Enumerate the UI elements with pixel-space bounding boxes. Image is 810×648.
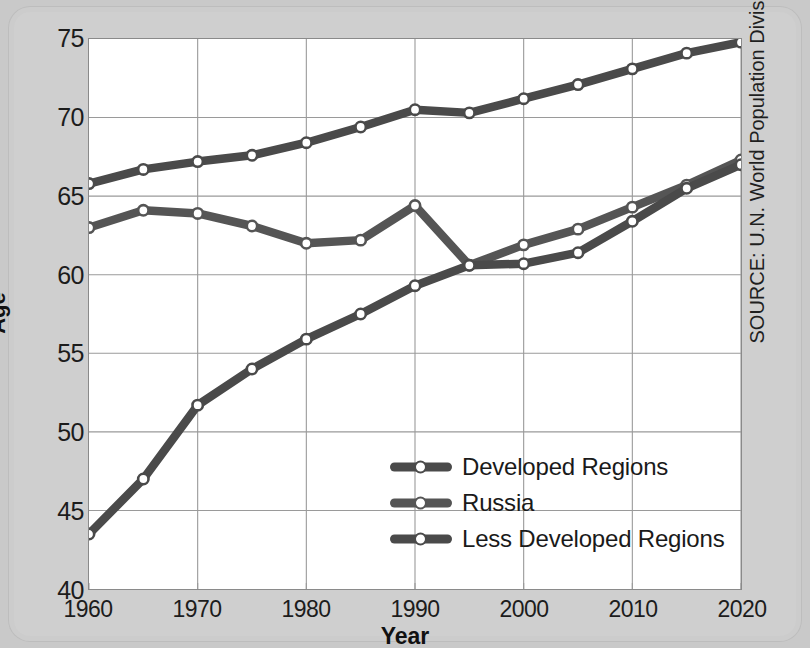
y-tick-50: 50	[24, 418, 84, 447]
y-tick-70: 70	[24, 102, 84, 131]
x-tick-2020: 2020	[697, 596, 787, 623]
y-tick-45: 45	[24, 497, 84, 526]
x-tick-1960: 1960	[43, 596, 133, 623]
chart-figure: 4045505560657075 19601970198019902000201…	[0, 0, 810, 648]
legend-marker-icon	[414, 461, 427, 474]
y-tick-60: 60	[24, 260, 84, 289]
legend-label: Less Developed Regions	[462, 525, 724, 553]
chart-legend: Developed RegionsRussiaLess Developed Re…	[390, 452, 724, 554]
legend-swatch-icon	[390, 488, 452, 518]
source-note: SOURCE: U.N. World Population Division	[746, 0, 769, 344]
legend-swatch-icon	[390, 524, 452, 554]
legend-marker-icon	[414, 533, 427, 546]
legend-swatch-icon	[390, 452, 452, 482]
legend-label: Developed Regions	[462, 453, 668, 481]
y-tick-55: 55	[24, 339, 84, 368]
legend-label: Russia	[462, 489, 534, 517]
y-tick-65: 65	[24, 181, 84, 210]
x-tick-1990: 1990	[370, 596, 460, 623]
x-axis-title: Year	[0, 623, 810, 648]
y-tick-75: 75	[24, 24, 84, 53]
legend-item-less-developed-regions[interactable]: Less Developed Regions	[390, 524, 724, 554]
legend-item-russia[interactable]: Russia	[390, 488, 724, 518]
x-tick-2010: 2010	[588, 596, 678, 623]
legend-item-developed-regions[interactable]: Developed Regions	[390, 452, 724, 482]
x-tick-1970: 1970	[152, 596, 242, 623]
x-tick-2000: 2000	[479, 596, 569, 623]
series-developed-regions	[89, 39, 741, 189]
x-tick-1980: 1980	[261, 596, 351, 623]
y-axis-title: Age	[0, 292, 11, 334]
legend-marker-icon	[414, 497, 427, 510]
